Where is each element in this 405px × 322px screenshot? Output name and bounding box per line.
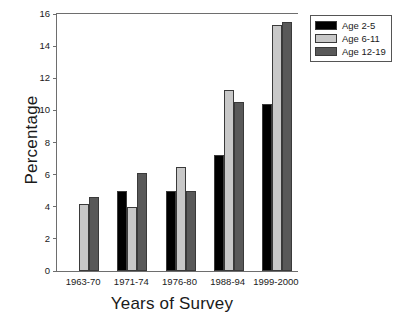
bar bbox=[282, 22, 292, 271]
y-tick-label: 2 bbox=[45, 232, 50, 245]
bar bbox=[166, 191, 176, 271]
y-tick-label: 10 bbox=[39, 103, 50, 116]
y-tick-label: 14 bbox=[39, 39, 50, 52]
bar-group bbox=[166, 14, 196, 271]
bar bbox=[79, 204, 89, 271]
x-tick-label: 1971-74 bbox=[114, 275, 149, 288]
legend-label: Age 6-11 bbox=[342, 33, 380, 44]
legend-swatch bbox=[315, 21, 337, 30]
bar bbox=[214, 155, 224, 271]
y-tick-label: 16 bbox=[39, 7, 50, 20]
x-axis-title: Years of Survey bbox=[47, 294, 297, 314]
legend-label: Age 2-5 bbox=[342, 20, 375, 31]
y-tick-label: 12 bbox=[39, 71, 50, 84]
bar bbox=[117, 191, 127, 271]
y-tick-label: 6 bbox=[45, 168, 50, 181]
bar-group bbox=[117, 14, 147, 271]
bar bbox=[186, 191, 196, 271]
x-tick-label: 1963-70 bbox=[66, 275, 101, 288]
bar bbox=[89, 197, 99, 271]
bar-group bbox=[69, 14, 99, 271]
legend-item: Age 2-5 bbox=[315, 20, 386, 31]
legend-item: Age 12-19 bbox=[315, 46, 386, 57]
figure-caption-strip bbox=[0, 313, 405, 322]
x-tick-label: 1988-94 bbox=[210, 275, 245, 288]
bar bbox=[127, 207, 137, 271]
bar-chart-figure: Percentage 0246810121416 1963-701971-741… bbox=[0, 0, 405, 322]
y-tick-label: 4 bbox=[45, 200, 50, 213]
legend-swatch bbox=[315, 47, 337, 56]
bar-group bbox=[262, 14, 292, 271]
bar bbox=[234, 102, 244, 271]
bar bbox=[176, 167, 186, 271]
x-tick-label: 1999-2000 bbox=[253, 275, 298, 288]
bar-group bbox=[214, 14, 244, 271]
x-axis-tick-labels: 1963-701971-741976-801988-941999-2000 bbox=[56, 275, 298, 291]
chart-legend: Age 2-5Age 6-11Age 12-19 bbox=[310, 15, 392, 62]
legend-swatch bbox=[315, 34, 337, 43]
bar bbox=[272, 25, 282, 271]
bar bbox=[137, 173, 147, 271]
y-tick-label: 0 bbox=[45, 264, 50, 277]
legend-label: Age 12-19 bbox=[342, 46, 386, 57]
legend-item: Age 6-11 bbox=[315, 33, 386, 44]
x-tick-label: 1976-80 bbox=[162, 275, 197, 288]
bar bbox=[224, 90, 234, 272]
y-tick-label: 8 bbox=[45, 136, 50, 149]
bars-layer bbox=[57, 14, 298, 271]
plot-area: 0246810121416 bbox=[56, 13, 298, 272]
bar bbox=[262, 104, 272, 271]
